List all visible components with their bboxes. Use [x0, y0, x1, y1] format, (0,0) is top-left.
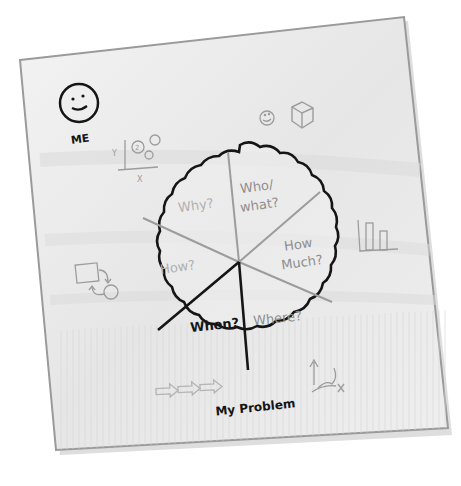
me-label: ME — [70, 131, 90, 146]
napkin-sketch-canvas: ME Y 2 X — [0, 0, 461, 486]
scatter-x-label: X — [137, 175, 143, 184]
scatter-bubble-label: 2 — [135, 144, 139, 152]
scatter-y-label: Y — [111, 149, 117, 158]
